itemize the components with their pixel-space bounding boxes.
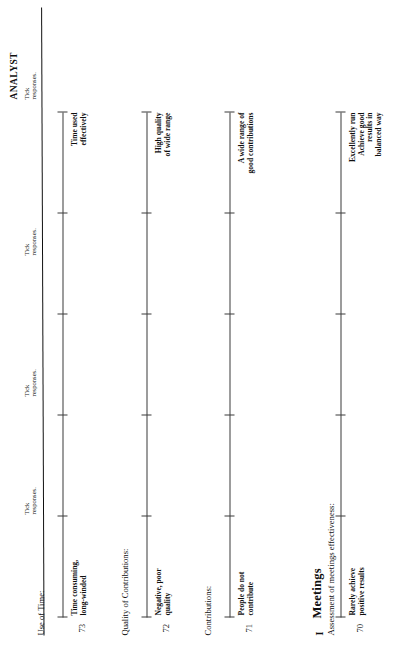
scale-72-tick-2[interactable] xyxy=(141,515,151,516)
scale-71-tick-6[interactable] xyxy=(224,111,234,112)
scale-70-tick-5[interactable] xyxy=(335,212,345,213)
scale-72-tick-3[interactable] xyxy=(141,414,151,415)
item-73-low-anchor: Time consuming, long-winded xyxy=(70,495,87,615)
item-70-high-anchor-line3: results in xyxy=(365,112,374,225)
scale-70-tick-4[interactable] xyxy=(335,313,345,314)
scale-73-tick-6[interactable] xyxy=(57,111,67,112)
item-71-prompt: Contributions: xyxy=(202,585,212,635)
scale-72-tick-5[interactable] xyxy=(141,212,151,213)
document-page: ANALYST Tick responses. Tick responses. … xyxy=(0,0,397,645)
item-71-low-anchor-line1: People do not xyxy=(237,505,246,615)
item-71-low-anchor-line2: contribute xyxy=(246,505,255,615)
scale-71-line xyxy=(229,112,230,617)
item-70-low-anchor-line2: positive results xyxy=(357,505,366,615)
analyst-header-label: ANALYST xyxy=(8,7,19,99)
item-73-low-anchor-line2: long-winded xyxy=(79,495,88,615)
item-70-low-anchor: Rarely achieve positive results xyxy=(348,505,365,615)
scale-73-tick-2[interactable] xyxy=(57,515,67,516)
item-72-high-anchor-line1: High quality xyxy=(154,112,163,225)
item-72-low-anchor-line1: Negative, poor xyxy=(154,505,163,615)
rating-scale-72[interactable] xyxy=(141,112,151,617)
item-70-low-anchor-line1: Rarely achieve xyxy=(348,505,357,615)
scale-70-tick-6[interactable] xyxy=(335,111,345,112)
item-71-high-anchor: A wide range of good contributions xyxy=(237,112,254,245)
item-73-low-anchor-line1: Time consuming, xyxy=(70,495,79,615)
item-72-prompt: Quality of Contributions: xyxy=(119,548,129,635)
scale-72-line xyxy=(146,112,147,617)
item-72-low-anchor-line2: quality xyxy=(163,505,172,615)
scale-70-line xyxy=(340,112,341,617)
item-70-number: 70 xyxy=(354,623,364,632)
item-71-high-anchor-line1: A wide range of xyxy=(237,112,246,245)
item-70-high-anchor-line1: Excellently run xyxy=(348,112,357,225)
scale-71-tick-1[interactable] xyxy=(224,616,234,617)
scale-73-line xyxy=(62,112,63,617)
item-71-low-anchor: People do not contribute xyxy=(237,505,254,615)
scale-72-tick-1[interactable] xyxy=(141,616,151,617)
scale-73-tick-5[interactable] xyxy=(57,212,67,213)
rotated-page-wrapper: ANALYST Tick responses. Tick responses. … xyxy=(0,0,397,645)
rating-scale-73[interactable] xyxy=(57,112,67,617)
scale-73-tick-1[interactable] xyxy=(57,616,67,617)
section-number: I xyxy=(313,631,324,635)
item-73-prompt: Use of Time: xyxy=(35,590,45,635)
rating-scale-71[interactable] xyxy=(224,112,234,617)
scale-70-tick-1[interactable] xyxy=(335,616,345,617)
section-title: Meetings xyxy=(309,568,324,618)
item-72-number: 72 xyxy=(160,623,170,632)
scale-71-tick-3[interactable] xyxy=(224,414,234,415)
scale-73-tick-3[interactable] xyxy=(57,414,67,415)
item-71-high-anchor-line2: good contributions xyxy=(246,112,255,245)
item-73-high-anchor-line1: Time used xyxy=(70,112,79,215)
item-70-high-anchor-line4: balanced way xyxy=(374,112,383,225)
item-73-high-anchor: Time used effectively xyxy=(70,112,87,215)
scale-70-tick-3[interactable] xyxy=(335,414,345,415)
analyst-column-header: ANALYST xyxy=(8,7,19,99)
item-72-high-anchor-line2: of wide range xyxy=(163,112,172,225)
scale-71-tick-2[interactable] xyxy=(224,515,234,516)
scale-72-tick-6[interactable] xyxy=(141,111,151,112)
item-71-number: 71 xyxy=(243,623,253,632)
item-70-high-anchor: Excellently run Achieve good results in … xyxy=(348,112,382,225)
item-73-number: 73 xyxy=(76,623,86,632)
item-72-low-anchor: Negative, poor quality xyxy=(154,505,171,615)
item-70-prompt: Assessment of meetings effectiveness: xyxy=(325,503,335,635)
scale-71-tick-5[interactable] xyxy=(224,212,234,213)
scale-72-tick-4[interactable] xyxy=(141,313,151,314)
scale-70-tick-2[interactable] xyxy=(335,515,345,516)
item-73-high-anchor-line2: effectively xyxy=(79,112,88,215)
scale-73-tick-4[interactable] xyxy=(57,313,67,314)
item-72-high-anchor: High quality of wide range xyxy=(154,112,171,225)
rating-scale-70[interactable] xyxy=(335,112,345,617)
scale-71-tick-4[interactable] xyxy=(224,313,234,314)
